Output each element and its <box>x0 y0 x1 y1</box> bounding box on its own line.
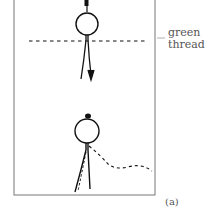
arrow-head-icon <box>88 70 94 80</box>
panel-frame <box>14 0 155 195</box>
bottom-knot <box>85 114 91 119</box>
panel-label: (a) <box>165 196 179 208</box>
bottom-pendulum <box>75 114 152 193</box>
loose-thread-dashed <box>89 146 152 171</box>
green-thread-label: green thread <box>168 27 205 51</box>
top-pendulum <box>76 0 98 80</box>
label-line-thread: thread <box>168 39 205 51</box>
bottom-ring <box>75 119 99 143</box>
top-ring <box>76 13 98 35</box>
